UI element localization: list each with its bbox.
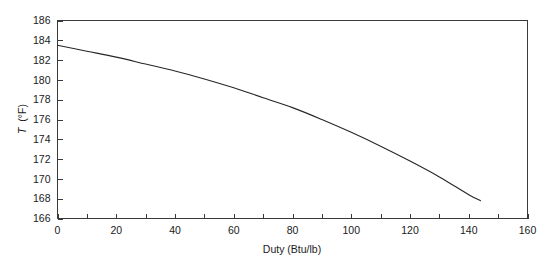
- y-tick-label: 180: [33, 74, 51, 86]
- x-tick-label: 120: [401, 224, 419, 236]
- x-tick-label: 40: [169, 224, 181, 236]
- x-tick-label: 140: [460, 224, 478, 236]
- x-tick-label: 160: [519, 224, 537, 236]
- chart-canvas: 020406080100120140160 166168170172174176…: [0, 0, 549, 268]
- y-axis-title: T (°F): [16, 104, 28, 134]
- data-series-line: [58, 45, 481, 200]
- y-axis-title-symbol: T: [16, 126, 28, 134]
- y-tick-label: 186: [33, 14, 51, 26]
- y-axis-tick-labels: 166168170172174176178180182184186: [33, 14, 51, 224]
- y-tick-label: 166: [33, 212, 51, 224]
- y-tick-label: 172: [33, 153, 51, 165]
- x-axis-tick-labels: 020406080100120140160: [55, 224, 537, 236]
- y-tick-label: 184: [33, 34, 51, 46]
- y-axis-ticks: [58, 22, 63, 220]
- y-tick-label: 174: [33, 133, 51, 145]
- plot-frame: [58, 21, 528, 219]
- y-tick-label: 168: [33, 192, 51, 204]
- x-tick-label: 100: [342, 224, 360, 236]
- x-axis-title: Duty (Btu/lb): [263, 243, 321, 255]
- y-tick-label: 178: [33, 93, 51, 105]
- chart-figure: 020406080100120140160 166168170172174176…: [0, 0, 549, 268]
- y-tick-label: 182: [33, 54, 51, 66]
- x-tick-label: 20: [110, 224, 122, 236]
- x-axis-ticks: [59, 214, 529, 219]
- x-tick-label: 60: [228, 224, 240, 236]
- x-tick-label: 80: [287, 224, 299, 236]
- y-tick-label: 176: [33, 113, 51, 125]
- x-tick-label: 0: [55, 224, 61, 236]
- y-axis-title-unit: (°F): [16, 104, 28, 122]
- y-tick-label: 170: [33, 173, 51, 185]
